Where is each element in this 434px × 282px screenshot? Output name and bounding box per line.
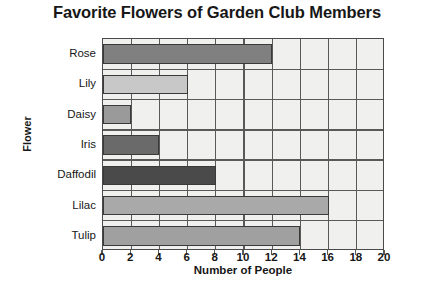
chart-title: Favorite Flowers of Garden Club Members	[0, 3, 434, 22]
x-tick-label-16: 16	[321, 251, 334, 263]
y-tick-label-tulip: Tulip	[72, 229, 97, 241]
category-separator-4	[103, 159, 383, 160]
x-tick-label-6: 6	[183, 251, 189, 263]
y-tick-label-rose: Rose	[69, 47, 96, 59]
y-tick-label-daffodil: Daffodil	[57, 168, 96, 180]
gridline-x-14	[300, 39, 301, 249]
bar-rose	[103, 44, 272, 63]
gridline-x-8	[215, 39, 216, 249]
gridline-x-16	[328, 39, 329, 249]
plot-area	[102, 38, 384, 250]
y-tick-label-lily: Lily	[79, 77, 96, 89]
category-separator-6	[103, 220, 383, 221]
gridline-x-6	[187, 39, 188, 249]
x-tick-label-12: 12	[265, 251, 278, 263]
bar-lilac	[103, 196, 329, 215]
x-tick-label-14: 14	[293, 251, 306, 263]
y-tick-label-iris: Iris	[81, 138, 96, 150]
bar-tulip	[103, 226, 300, 245]
x-tick-label-20: 20	[378, 251, 391, 263]
x-tick-label-8: 8	[212, 251, 218, 263]
y-tick-label-lilac: Lilac	[72, 199, 96, 211]
gridline-x-12	[272, 39, 273, 249]
bar-lily	[103, 75, 188, 94]
x-tick-label-10: 10	[237, 251, 250, 263]
category-separator-5	[103, 190, 383, 191]
bar-daisy	[103, 105, 131, 124]
x-tick-label-18: 18	[349, 251, 362, 263]
y-axis-tick-labels: RoseLilyDaisyIrisDaffodilLilacTulip	[0, 38, 96, 250]
x-tick-label-4: 4	[155, 251, 161, 263]
x-tick-label-0: 0	[99, 251, 105, 263]
category-separator-3	[103, 129, 383, 130]
category-separator-1	[103, 69, 383, 70]
bar-daffodil	[103, 166, 216, 185]
bar-iris	[103, 135, 159, 154]
gridline-x-18	[356, 39, 357, 249]
category-separator-2	[103, 99, 383, 100]
gridline-x-10	[243, 39, 244, 249]
x-axis-title: Number of People	[102, 264, 384, 276]
y-tick-label-daisy: Daisy	[67, 108, 96, 120]
bar-chart: Favorite Flowers of Garden Club Members …	[0, 0, 434, 282]
x-tick-label-2: 2	[127, 251, 133, 263]
